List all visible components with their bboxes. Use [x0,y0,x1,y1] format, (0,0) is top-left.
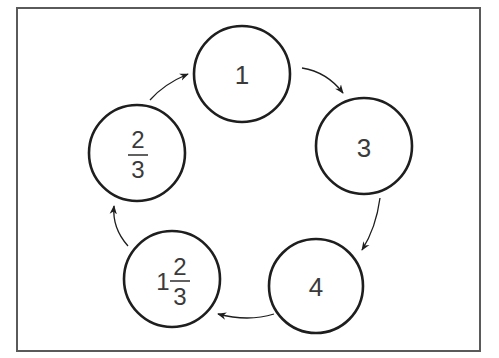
fraction-denominator: 3 [131,156,144,183]
arrow-3-to-4 [362,198,380,250]
fraction-denominator: 3 [173,283,186,310]
arrow-2-3-to-1 [150,74,188,100]
node-1: 1 [194,26,290,122]
cycle-diagram: 1 3 4 1 2 3 2 3 [0,0,499,358]
node-label: 3 [357,133,371,163]
node-circle [124,231,220,327]
node-label: 1 [235,60,249,90]
arrow-1-2-3-to-2-3 [114,206,128,246]
node-label: 4 [309,272,323,302]
arrow-4-to-1-2-3 [218,314,274,318]
node-1-2-3: 1 2 3 [124,231,220,327]
mixed-whole: 1 [156,268,169,295]
fraction-numerator: 2 [131,126,144,153]
node-2-3: 2 3 [89,105,185,201]
node-circle [89,105,185,201]
node-4: 4 [269,239,363,333]
fraction-numerator: 2 [173,253,186,280]
node-3: 3 [316,98,412,194]
arrow-1-to-3 [302,68,343,93]
